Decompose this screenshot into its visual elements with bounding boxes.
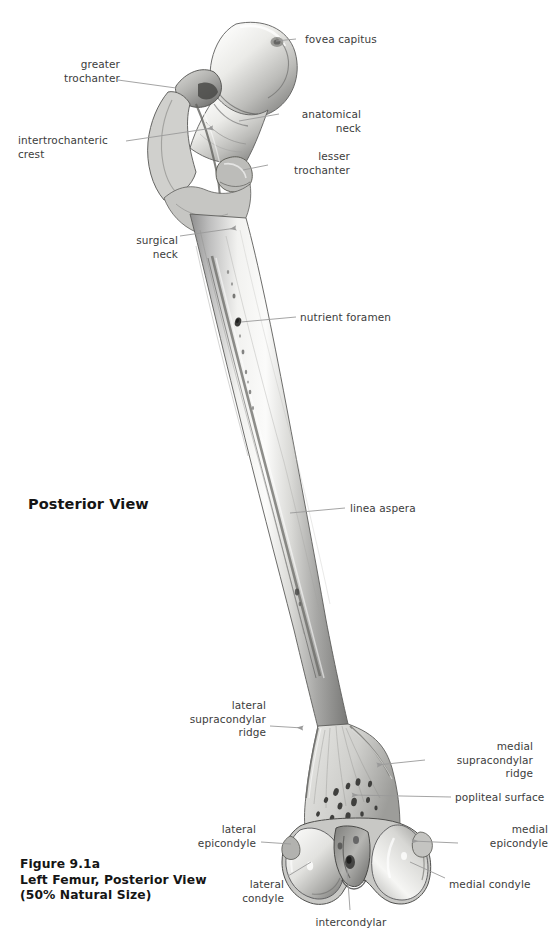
label-lateral-supracondylar-ridge: lateral supracondylar ridge (188, 699, 266, 740)
label-medial-condyle: medial condyle (449, 878, 553, 892)
femoral-neck-group (190, 96, 268, 163)
leader-lateral-supracondylar (270, 726, 303, 728)
lesser-trochanter-group (216, 157, 252, 192)
figure-caption: Figure 9.1a Left Femur, Posterior View (… (20, 857, 220, 904)
leader-medial-condyle (410, 862, 445, 878)
leader-medial-epicondyle (412, 841, 458, 843)
leader-intercondylar (347, 868, 350, 910)
label-intercondylar: intercondylar (296, 916, 406, 930)
distal-shaft-group (305, 724, 401, 834)
label-lateral-condyle: lateral condyle (222, 878, 284, 905)
leader-fovea-capitus (276, 39, 296, 41)
leader-lateral-condyle (288, 862, 311, 876)
leader-popliteal-surface (352, 795, 451, 797)
label-intertrochanteric-crest: intertrochanteric crest (18, 134, 124, 161)
leader-nutrient-foramen (241, 317, 296, 322)
label-nutrient-foramen: nutrient foramen (300, 311, 420, 325)
label-lateral-epicondyle: lateral epicondyle (184, 823, 256, 850)
label-lesser-trochanter: lesser trochanter (272, 150, 350, 177)
leader-lateral-epicondyle (261, 842, 291, 844)
leader-linea-aspera (290, 508, 345, 513)
posterior-view-heading: Posterior View (28, 496, 149, 512)
figure-page: fovea capitusgreater trochanteranatomica… (0, 0, 553, 940)
leader-intertrochanteric-crest (126, 128, 213, 141)
proximal-shaft-group (164, 184, 251, 235)
leader-anatomical-neck (239, 114, 279, 121)
distal-condyles-group (282, 818, 433, 904)
label-medial-supracondylar-ridge: medial supracondylar ridge (429, 740, 533, 781)
greater-trochanter-group (148, 70, 222, 202)
leader-greater-trochanter (118, 80, 176, 88)
label-linea-aspera: linea aspera (350, 502, 442, 516)
label-fovea-capitus: fovea capitus (305, 33, 425, 47)
label-popliteal-surface: popliteal surface (455, 791, 553, 805)
leader-lesser-trochanter (243, 165, 268, 170)
label-greater-trochanter: greater trochanter (28, 58, 120, 85)
femoral-head-group (210, 22, 297, 117)
label-anatomical-neck: anatomical neck (283, 108, 361, 135)
label-medial-epicondyle: medial epicondyle (462, 823, 548, 850)
leader-surgical-neck (180, 228, 236, 236)
femoral-shaft-group (190, 214, 348, 728)
leader-medial-supracondylar (377, 760, 425, 765)
label-surgical-neck: surgical neck (122, 234, 178, 261)
